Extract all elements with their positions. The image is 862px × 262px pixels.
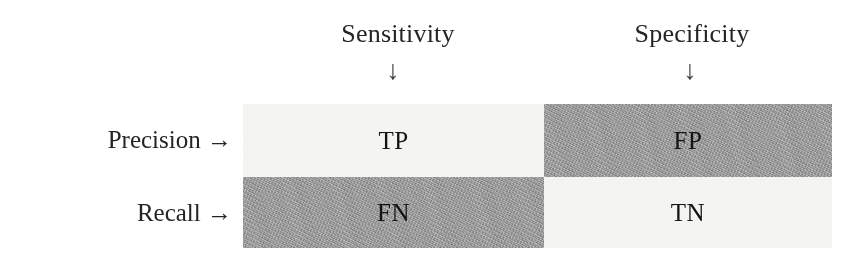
row-label-precision: Precision →	[22, 125, 232, 155]
matrix-cell-label: FP	[674, 128, 703, 153]
matrix-cell-label: TP	[378, 128, 408, 153]
matrix-grid: TP FP FN TN	[243, 104, 832, 248]
confusion-matrix-figure: Sensitivity ↓ Specificity ↓ Precision → …	[0, 0, 862, 262]
matrix-cell-true-negative: TN	[544, 177, 832, 248]
matrix-cell-false-positive: FP	[544, 104, 832, 177]
matrix-cell-false-negative: FN	[243, 177, 544, 248]
column-header-specificity: Specificity	[562, 19, 822, 49]
down-arrow-icon-specificity: ↓	[670, 56, 710, 84]
row-label-recall: Recall →	[22, 198, 232, 228]
matrix-cell-label: FN	[377, 200, 410, 225]
matrix-cell-label: TN	[671, 200, 705, 225]
column-header-sensitivity: Sensitivity	[268, 19, 528, 49]
down-arrow-icon-sensitivity: ↓	[373, 56, 413, 84]
matrix-cell-true-positive: TP	[243, 104, 544, 177]
